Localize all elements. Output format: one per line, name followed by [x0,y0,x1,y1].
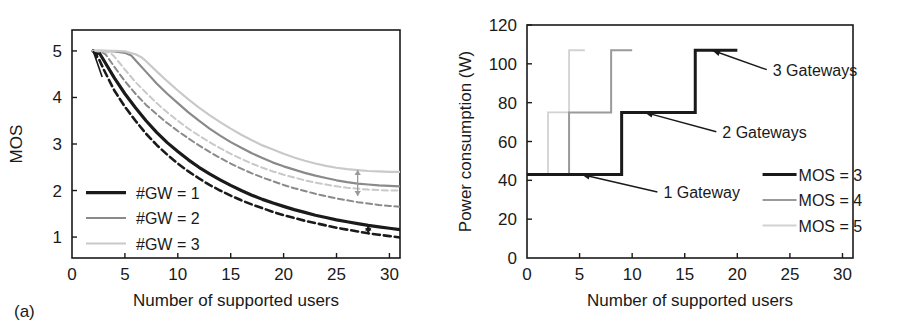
annotation-leader-line [645,112,717,131]
legend-label: MOS = 3 [799,167,863,184]
x-tick-label: 20 [728,265,747,284]
y-axis-title: Power consumption (W) [456,51,475,232]
y-tick-label: 120 [489,16,517,35]
annotation-leader-line [582,175,658,192]
annotation-1-gateway-label: 1 Gateway [663,184,739,201]
x-tick-label: 10 [168,265,187,284]
mos-vs-users-chart: 05101520253012345Number of supported use… [0,0,449,334]
legend-label: #GW = 1 [136,185,200,202]
y-tick-label: 20 [498,210,517,229]
y-tick-label: 40 [498,171,517,190]
x-tick-label: 0 [522,265,531,284]
legend-label: MOS = 4 [799,192,863,209]
x-tick-label: 15 [221,265,240,284]
y-tick-label: 0 [508,249,517,268]
x-tick-label: 20 [274,265,293,284]
y-tick-label: 60 [498,133,517,152]
series-step-line [527,50,632,174]
y-tick-label: 3 [53,135,62,154]
legend-label: #GW = 3 [136,236,200,253]
y-tick-label: 100 [489,55,517,74]
x-tick-label: 25 [327,265,346,284]
gap-arrow-head-bottom [354,191,360,196]
x-tick-label: 10 [623,265,642,284]
x-tick-label: 30 [380,265,399,284]
annotation-2-gateways-label: 2 Gateways [722,124,806,141]
y-tick-label: 1 [53,228,62,247]
y-tick-label: 80 [498,94,517,113]
power-consumption-vs-users-chart: 051015202530020406080100120Number of sup… [449,0,898,334]
series-group [527,50,767,192]
y-axis-title: MOS [7,125,26,164]
y-tick-label: 5 [53,42,62,61]
x-tick-label: 30 [833,265,852,284]
annotation-3-gateways-label: 3 Gateways [773,62,857,79]
series-line [93,51,400,186]
annotation-leader-line [712,50,767,69]
x-tick-label: 0 [67,265,76,284]
chart-panel-b: 051015202530020406080100120Number of sup… [449,0,898,334]
y-tick-label: 2 [53,182,62,201]
x-axis-title: Number of supported users [133,291,339,310]
x-axis-title: Number of supported users [587,291,793,310]
x-tick-label: 5 [575,265,584,284]
legend-label: #GW = 2 [136,210,200,227]
annotation-arrow-head [712,50,721,56]
x-tick-label: 15 [675,265,694,284]
legend-label: MOS = 5 [799,218,863,235]
x-tick-label: 5 [120,265,129,284]
figure-container: 05101520253012345Number of supported use… [0,0,898,334]
x-tick-label: 25 [780,265,799,284]
panel-a-caption: (a) [14,302,35,322]
chart-panel-a: 05101520253012345Number of supported use… [0,0,449,334]
annotation-arrow-head [645,111,654,117]
y-tick-label: 4 [53,88,62,107]
